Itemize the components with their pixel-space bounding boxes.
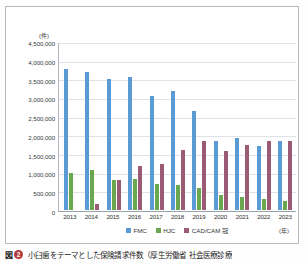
chart-panel: (件) 0500,0001,000,0001,500,0002,000,0002… — [5, 6, 299, 244]
bar — [85, 72, 89, 210]
x-axis-tick: 2023 — [274, 213, 296, 225]
bar — [128, 77, 132, 210]
x-axis-tick: 2019 — [188, 213, 210, 225]
x-axis-tick: 2015 — [102, 213, 124, 225]
legend-swatch-icon — [184, 228, 189, 233]
plot-frame — [58, 43, 296, 212]
bar-group — [103, 43, 124, 210]
legend-swatch-icon — [156, 228, 161, 233]
bar — [176, 185, 180, 210]
bar — [90, 170, 94, 210]
x-axis-tick: 2013 — [59, 213, 81, 225]
bar — [214, 141, 218, 210]
bar — [95, 204, 99, 210]
legend-item[interactable]: FMC — [126, 227, 147, 234]
x-axis-unit-label: (年) — [279, 226, 289, 235]
y-axis-tick: 1,000,000 — [28, 171, 55, 178]
bar — [150, 96, 154, 210]
bar-group — [253, 43, 274, 210]
bar-group — [275, 43, 296, 210]
bar — [171, 91, 175, 210]
bar — [235, 138, 239, 210]
legend-item[interactable]: HJC — [156, 227, 176, 234]
legend-label: CAD/CAM 冠 — [192, 226, 228, 235]
bar-group — [81, 43, 102, 210]
y-axis-tick-labels: 0500,0001,000,0001,500,0002,000,0002,500… — [6, 43, 55, 212]
legend-swatch-icon — [126, 228, 131, 233]
bar — [262, 199, 266, 210]
bar — [107, 79, 111, 210]
x-axis-tick: 2018 — [167, 213, 189, 225]
bar — [64, 69, 68, 210]
y-axis-tick: 1,500,000 — [28, 152, 55, 159]
bar — [197, 188, 201, 210]
y-axis-tick: 4,500,000 — [28, 40, 55, 47]
legend-label: HJC — [163, 227, 175, 234]
x-axis-tick: 2020 — [210, 213, 232, 225]
bar-group — [60, 43, 81, 210]
bar — [283, 201, 287, 210]
y-axis-tick: 2,500,000 — [28, 115, 55, 122]
y-axis-tick: 3,500,000 — [28, 77, 55, 84]
bar — [112, 180, 116, 210]
x-axis-tick: 2014 — [81, 213, 103, 225]
figure-caption-text: 小臼歯をテーマとした保険請求件数（厚生労働省 社会医療診療 — [28, 249, 232, 260]
bar — [267, 141, 271, 210]
bar-group — [189, 43, 210, 210]
bar — [278, 141, 282, 210]
legend-label: FMC — [133, 227, 146, 234]
bar — [181, 150, 185, 210]
x-axis-tick: 2022 — [253, 213, 275, 225]
y-axis-tick: 500,000 — [33, 190, 55, 197]
bar — [69, 173, 73, 210]
bar — [117, 180, 121, 210]
bar — [288, 141, 292, 210]
bar — [192, 111, 196, 210]
y-axis-tick: 0 — [52, 209, 55, 216]
figure-caption-marker: 図 — [5, 249, 13, 260]
y-axis-tick: 3,000,000 — [28, 96, 55, 103]
figure-container: (件) 0500,0001,000,0001,500,0002,000,0002… — [0, 0, 306, 264]
figure-caption-tag: 図 2 — [5, 249, 23, 260]
x-axis-tick: 2017 — [145, 213, 167, 225]
bar — [224, 151, 228, 210]
bar — [245, 145, 249, 210]
legend-item[interactable]: CAD/CAM 冠 — [184, 226, 228, 235]
bar — [138, 166, 142, 210]
bar-group — [146, 43, 167, 210]
x-axis-tick: 2021 — [231, 213, 253, 225]
bar-group — [167, 43, 188, 210]
bar-group — [232, 43, 253, 210]
bar — [202, 141, 206, 210]
bar-groups — [60, 43, 296, 210]
plot-area — [58, 43, 296, 212]
bar-group — [124, 43, 145, 210]
bar-group — [210, 43, 231, 210]
bar — [133, 179, 137, 210]
bar — [240, 197, 244, 210]
figure-caption: 図 2 小臼歯をテーマとした保険請求件数（厚生労働省 社会医療診療 — [5, 249, 301, 264]
bar — [257, 146, 261, 210]
figure-caption-number: 2 — [14, 250, 23, 259]
bar — [155, 184, 159, 210]
bar — [160, 164, 164, 210]
y-axis-tick: 2,000,000 — [28, 133, 55, 140]
x-axis-tick: 2016 — [124, 213, 146, 225]
y-axis-tick: 4,000,000 — [28, 58, 55, 65]
bar — [219, 195, 223, 210]
chart-legend: FMCHJCCAD/CAM 冠 — [58, 226, 296, 235]
x-axis-tick-labels: 2013201420152016201720182019202020212022… — [59, 213, 296, 225]
